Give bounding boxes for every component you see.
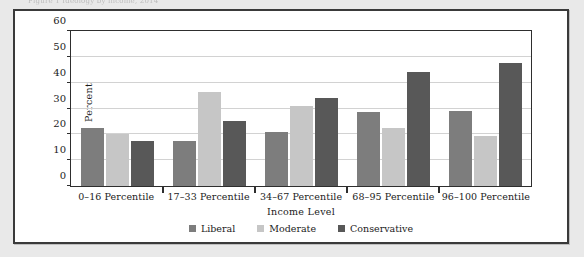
- bar-moderate[interactable]: [382, 128, 405, 186]
- bar-conservative[interactable]: [315, 98, 338, 186]
- y-axis-tick-label: 20: [53, 118, 66, 129]
- x-axis-tick-label: 96–100 Percentile: [440, 191, 532, 207]
- bar-moderate[interactable]: [474, 136, 497, 186]
- bar-group: [439, 31, 531, 186]
- y-axis-tick-label: 60: [53, 15, 66, 26]
- legend-item-conservative[interactable]: Conservative: [338, 223, 413, 234]
- legend-swatch-icon: [257, 225, 264, 232]
- legend-swatch-icon: [338, 225, 345, 232]
- x-axis-tick-label: 17–33 Percentile: [162, 191, 254, 207]
- y-axis-tick-label: 30: [53, 92, 66, 103]
- bar-conservative[interactable]: [131, 141, 154, 186]
- y-axis-tick-label: 40: [53, 66, 66, 77]
- y-axis-tick-label: 10: [53, 144, 66, 155]
- bar-liberal[interactable]: [265, 132, 288, 186]
- bar-liberal[interactable]: [449, 111, 472, 186]
- bar-group: [347, 31, 439, 186]
- x-axis-tick-label: 0–16 Percentile: [70, 191, 162, 207]
- bar-group: [71, 31, 163, 186]
- x-axis-tick-label: 34–67 Percentile: [255, 191, 347, 207]
- legend-label: Conservative: [350, 223, 413, 234]
- y-axis-tick-label: 0: [60, 170, 66, 181]
- figure-panel: Percent 0102030405060 0–16 Percentile17–…: [13, 9, 569, 244]
- bar-group: [163, 31, 255, 186]
- bar-moderate[interactable]: [106, 134, 129, 186]
- legend-label: Liberal: [201, 223, 235, 234]
- scan-caption-fragment: Figure 1 Ideology by income, 2014: [28, 0, 158, 5]
- bar-liberal[interactable]: [357, 112, 380, 186]
- bar-conservative[interactable]: [223, 121, 246, 186]
- chart-legend: LiberalModerateConservative: [70, 223, 532, 234]
- bar-conservative[interactable]: [407, 72, 430, 186]
- bar-conservative[interactable]: [499, 63, 522, 186]
- x-axis-tick-labels: 0–16 Percentile17–33 Percentile34–67 Per…: [70, 191, 532, 207]
- bars-layer: [71, 31, 531, 186]
- legend-label: Moderate: [269, 223, 316, 234]
- bar-chart: Percent 0102030405060 0–16 Percentile17–…: [15, 11, 571, 246]
- legend-item-moderate[interactable]: Moderate: [257, 223, 316, 234]
- bar-moderate[interactable]: [198, 92, 221, 186]
- bar-liberal[interactable]: [173, 141, 196, 186]
- legend-item-liberal[interactable]: Liberal: [189, 223, 235, 234]
- bar-group: [255, 31, 347, 186]
- bar-moderate[interactable]: [290, 106, 313, 186]
- x-axis-title: Income Level: [70, 206, 532, 217]
- bar-liberal[interactable]: [81, 128, 104, 186]
- x-axis-tick-label: 68–95 Percentile: [347, 191, 439, 207]
- legend-swatch-icon: [189, 225, 196, 232]
- y-axis-tick-label: 50: [53, 40, 66, 51]
- plot-area: Percent 0102030405060: [70, 30, 532, 187]
